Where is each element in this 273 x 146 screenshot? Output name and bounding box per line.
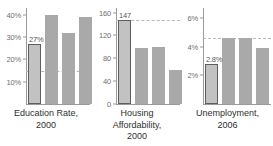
caption-line: 2000 <box>0 120 92 132</box>
y-axis-tick-label: 30% <box>7 33 21 42</box>
y-axis-tick-label: 10% <box>7 77 21 86</box>
caption-line: Affordability, <box>92 120 182 132</box>
y-axis-ticks: 16012080400 <box>92 6 116 105</box>
caption-line: Housing <box>92 108 182 120</box>
y-axis-tick-label: 160 <box>99 8 111 17</box>
y-axis-tick-label: 120 <box>99 31 111 40</box>
y-axis-tick-label: 20% <box>7 55 21 64</box>
value-label-layer: 2.8% <box>203 6 271 105</box>
chart-caption-education-rate: Education Rate,2000 <box>0 108 92 131</box>
caption-line: 2000 <box>92 131 182 143</box>
y-axis-tick-label: 2% <box>188 71 198 80</box>
plot-area-unemployment: 6%4%2% 2.8% <box>182 6 271 105</box>
y-axis-ticks: 6%4%2% <box>182 6 203 105</box>
chart-caption-unemployment: Unemployment,2006 <box>182 108 273 131</box>
y-axis-tick-label: 4% <box>188 42 198 51</box>
y-axis-ticks: 40%30%20%10% <box>0 6 26 105</box>
chart-panel-housing-affordability: 16012080400 147 HousingAffordability,200… <box>92 0 182 146</box>
caption-line: Unemployment, <box>182 108 273 120</box>
chart-caption-housing-affordability: HousingAffordability,2000 <box>92 108 182 143</box>
caption-line: Education Rate, <box>0 108 92 120</box>
plot-area-housing-affordability: 16012080400 147 <box>92 6 180 105</box>
chart-panel-education-rate: 40%30%20%10% 27% Education Rate,2000 <box>0 0 92 146</box>
value-label-layer: 27% <box>26 6 90 105</box>
bar-value-label: 147 <box>119 11 131 20</box>
chart-panel-unemployment: 6%4%2% 2.8% Unemployment,2006 <box>182 0 273 146</box>
bar-value-label: 2.8% <box>206 55 222 64</box>
y-axis-tick-label: 40% <box>7 10 21 19</box>
value-label-layer: 147 <box>116 6 180 105</box>
bar-value-label: 27% <box>29 35 43 44</box>
caption-line: 2006 <box>182 120 273 132</box>
y-axis-tick-label: 40 <box>103 77 111 86</box>
y-axis-tick-label: 6% <box>188 14 198 23</box>
small-multiples-bar-charts: 40%30%20%10% 27% Education Rate,2000 160… <box>0 0 273 146</box>
y-axis-tick-label: 80 <box>103 54 111 63</box>
plot-area-education-rate: 40%30%20%10% 27% <box>0 6 90 105</box>
